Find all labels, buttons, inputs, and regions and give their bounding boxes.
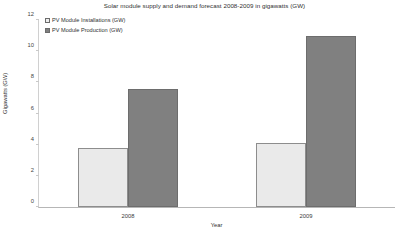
y-axis-tick-label: 8: [31, 73, 34, 79]
bar-group: 2009: [256, 20, 356, 207]
bar-production: [306, 36, 356, 207]
chart-title: Solar module supply and demand forecast …: [0, 2, 409, 10]
chart-container: Solar module supply and demand forecast …: [0, 0, 409, 238]
y-axis-tick-mark: [36, 144, 39, 145]
x-axis-title: Year: [38, 222, 395, 228]
y-axis-tick-label: 12: [28, 11, 34, 17]
y-axis-tick-mark: [36, 50, 39, 51]
y-axis-tick-label: 4: [31, 136, 34, 142]
y-axis-tick-mark: [36, 81, 39, 82]
y-axis-tick-label: 6: [31, 105, 34, 111]
bar-installations: [78, 148, 128, 207]
y-axis-tick-label: 2: [31, 167, 34, 173]
bar-production: [128, 89, 178, 207]
y-axis-tick-label: 10: [28, 42, 34, 48]
y-axis-title: Gigawatts (GW): [2, 73, 8, 114]
x-axis-category-label: 2009: [256, 213, 356, 219]
y-axis-tick-label: 0: [31, 198, 34, 204]
y-axis-tick-mark: [36, 113, 39, 114]
y-axis-tick-mark: [36, 19, 39, 20]
bar-installations: [256, 143, 306, 207]
y-axis-tick-mark: [36, 175, 39, 176]
bar-group: 2008: [78, 20, 178, 207]
plot-inner: 02468101220082009: [39, 20, 395, 207]
x-axis-category-label: 2008: [78, 213, 178, 219]
y-axis-tick-mark: [36, 206, 39, 207]
plot-area: 02468101220082009: [38, 20, 395, 208]
